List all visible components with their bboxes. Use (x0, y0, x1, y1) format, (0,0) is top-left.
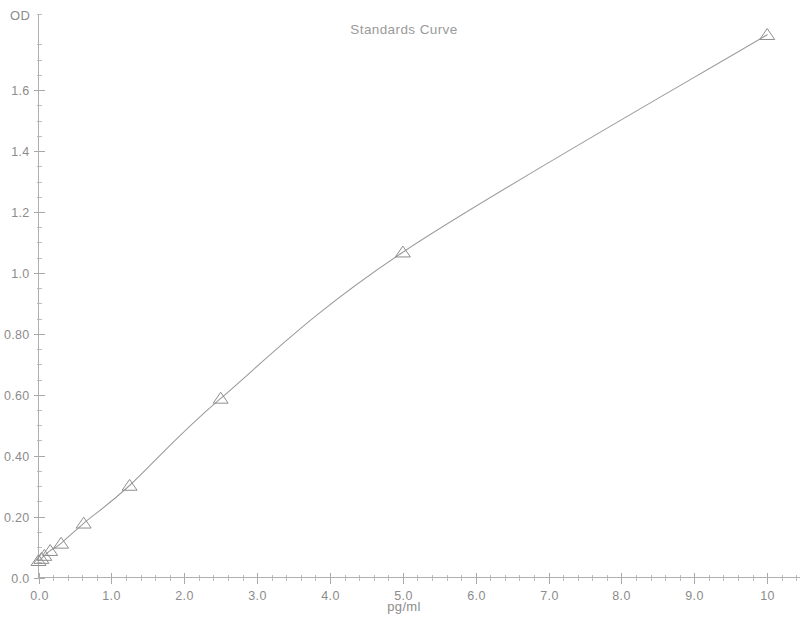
y-tick-label: 1.0 (11, 267, 29, 281)
x-tick-label: 10 (760, 589, 775, 603)
x-tick-label: 5.0 (394, 589, 412, 603)
chart-title-group: Standards Curve (350, 22, 457, 37)
y-tick-label: 0.80 (4, 328, 30, 342)
y-tick-label: 1.6 (11, 84, 29, 98)
y-tick-label: 0.20 (4, 511, 30, 525)
x-tick-label: 7.0 (540, 589, 558, 603)
x-tick-label: 6.0 (467, 589, 485, 603)
standards-curve-line (39, 35, 768, 561)
x-tick-label: 9.0 (685, 589, 703, 603)
y-tick-label: 1.2 (11, 206, 29, 220)
x-tick-label: 4.0 (321, 589, 339, 603)
y-axis-label: OD (10, 8, 30, 23)
y-tick-label: 1.4 (11, 145, 29, 159)
y-tick-label: 0.40 (4, 450, 30, 464)
data-point-markers (31, 29, 775, 566)
x-tick-label: 3.0 (248, 589, 266, 603)
x-tick-label: 0.0 (30, 589, 48, 603)
y-tick-label: 0.0 (11, 572, 29, 586)
x-tick-label: 2.0 (175, 589, 193, 603)
y-axis-tick-labels: 0.00.200.400.600.801.01.21.41.6 (4, 84, 30, 586)
y-axis-name-group: OD (10, 8, 30, 23)
standards-curve-chart: Standards Curve OD pg/ml 0.00.200.400.60… (0, 0, 809, 619)
chart-title: Standards Curve (350, 22, 457, 37)
chart-canvas: Standards Curve OD pg/ml 0.00.200.400.60… (0, 0, 809, 619)
x-tick-label: 1.0 (102, 589, 120, 603)
x-tick-label: 8.0 (612, 589, 630, 603)
x-axis-tick-labels: 0.01.02.03.04.05.06.07.08.09.010 (30, 589, 774, 603)
y-tick-label: 0.60 (4, 389, 30, 403)
